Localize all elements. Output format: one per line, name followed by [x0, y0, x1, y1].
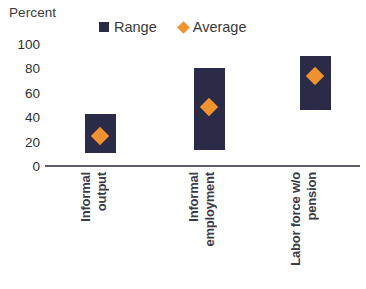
category-label: Informalemployment — [186, 172, 217, 247]
category-label: Informaloutput — [78, 172, 109, 222]
legend-label-range: Range — [114, 19, 157, 35]
chart-figure: Percent Range Average 100806040200 Infor… — [0, 0, 366, 289]
category-label-line: output — [94, 172, 109, 211]
chart-legend: Range Average — [99, 19, 246, 35]
legend-label-average: Average — [193, 19, 247, 35]
y-axis-title: Percent — [9, 5, 56, 20]
diamond-swatch-icon — [177, 21, 190, 34]
category-label-line: employment — [202, 172, 217, 247]
y-tick-label: 20 — [0, 134, 40, 149]
x-axis-line — [45, 165, 360, 167]
category-label-line: pension — [304, 172, 319, 220]
plot-area — [45, 44, 360, 166]
y-tick-label: 80 — [0, 61, 40, 76]
square-swatch-icon — [99, 22, 109, 32]
y-axis-tick-labels: 100806040200 — [0, 44, 40, 166]
x-axis-category-labels: InformaloutputInformalemploymentLabor fo… — [0, 172, 366, 289]
category-label-line: Informal — [186, 172, 201, 222]
category-label-line: Labor force w/o — [288, 172, 303, 266]
legend-item-average: Average — [179, 19, 247, 35]
category-label-line: Informal — [78, 172, 93, 222]
legend-item-range: Range — [99, 19, 157, 35]
category-label: Labor force w/opension — [288, 172, 319, 266]
y-tick-label: 100 — [0, 37, 40, 52]
y-tick-label: 60 — [0, 85, 40, 100]
y-tick-label: 40 — [0, 110, 40, 125]
